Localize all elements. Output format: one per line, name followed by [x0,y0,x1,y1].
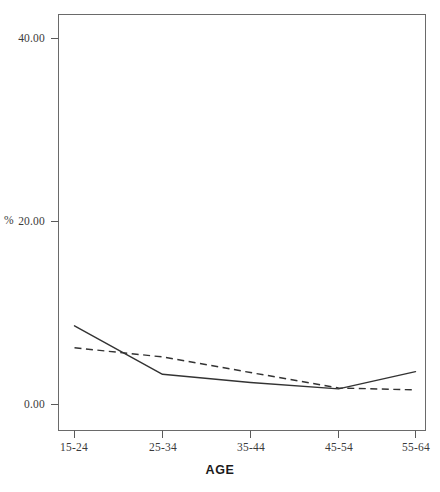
x-tick-label-15-24: 15-24 [60,442,88,454]
plot-frame [59,15,426,431]
y-tick-label-0: 0.00 [0,399,45,411]
y-tick-label-40: 40.00 [0,33,45,45]
chart-plot-area [0,0,440,492]
x-tick-label-55-64: 55-64 [402,442,430,454]
x-tick-label-35-44: 35-44 [237,442,265,454]
x-axis-ticks [75,431,416,439]
x-tick-label-45-54: 45-54 [325,442,353,454]
y-axis-ticks [51,39,59,405]
chart-figure: % 40.00 20.00 0.00 15-24 25-34 35-44 45-… [0,0,440,492]
x-axis-title: AGE [0,464,440,477]
y-tick-label-20: 20.00 [0,216,45,228]
x-tick-label-25-34: 25-34 [149,442,177,454]
